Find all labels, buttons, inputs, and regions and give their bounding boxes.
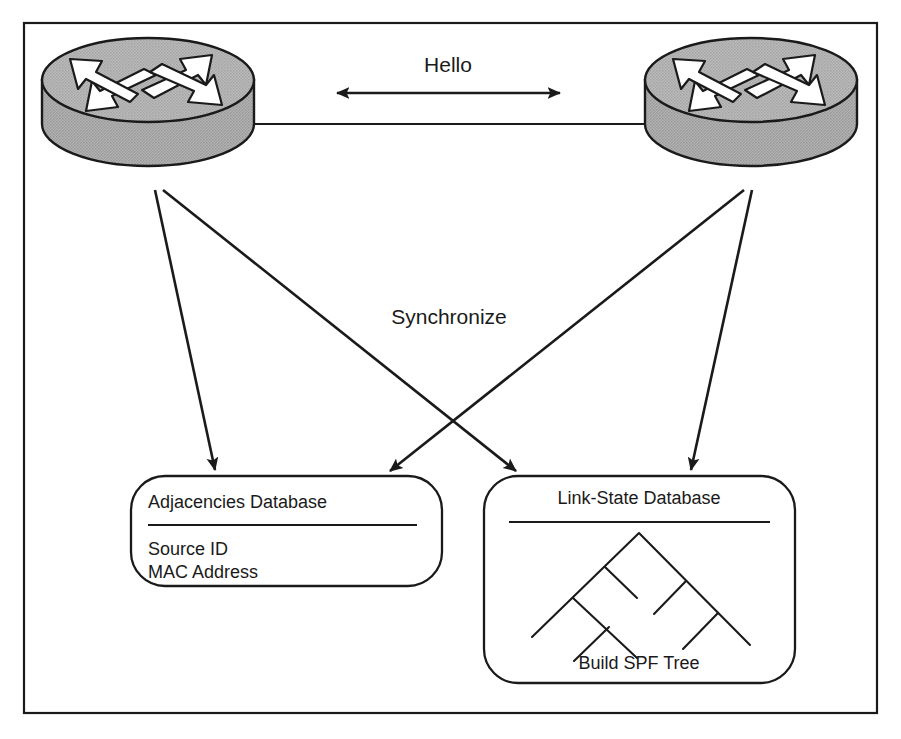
router-left[interactable] xyxy=(42,38,254,166)
synchronize-label: Synchronize xyxy=(391,305,507,328)
adjacencies-database-title: Adjacencies Database xyxy=(148,492,327,512)
adjacencies-database-item-source-id: Source ID xyxy=(148,539,228,559)
link-state-database-footer: Build SPF Tree xyxy=(578,653,699,673)
diagram-root: Hello Synchronize Adjacencies Database S… xyxy=(0,0,901,739)
router-right[interactable] xyxy=(645,38,857,166)
link-state-database-box[interactable]: Link-State Database Build SPF Tree xyxy=(484,476,795,683)
adjacencies-database-item-mac-address: MAC Address xyxy=(148,562,258,582)
link-state-database-title: Link-State Database xyxy=(557,488,720,508)
adjacencies-database-box[interactable]: Adjacencies Database Source ID MAC Addre… xyxy=(131,476,442,586)
network-diagram-canvas: Hello Synchronize Adjacencies Database S… xyxy=(0,0,901,739)
hello-label: Hello xyxy=(424,53,472,76)
